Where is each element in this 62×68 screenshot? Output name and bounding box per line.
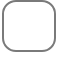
rounded-square-button[interactable] (2, 0, 56, 52)
